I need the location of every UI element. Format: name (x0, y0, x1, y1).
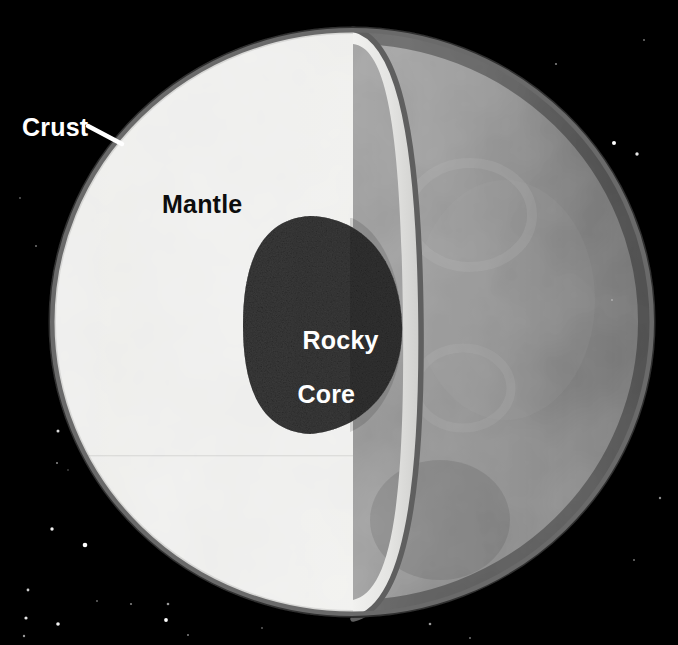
surface-feature-bright-patch (415, 180, 595, 420)
star (50, 527, 53, 530)
star (35, 245, 37, 247)
star (83, 543, 88, 548)
diagram-canvas: Crust Mantle Rocky Core (0, 0, 678, 645)
star (643, 39, 645, 41)
star (469, 637, 471, 639)
star (164, 618, 168, 622)
star (24, 616, 27, 619)
star (27, 589, 30, 592)
star (56, 462, 58, 464)
star (612, 141, 616, 145)
rocky-core (243, 216, 402, 434)
star (611, 299, 613, 301)
star (167, 603, 170, 606)
star (633, 559, 635, 561)
mantle-seam (45, 455, 355, 456)
star (67, 469, 69, 471)
star (57, 430, 60, 433)
star (23, 635, 25, 637)
star (187, 634, 189, 636)
star (659, 497, 661, 499)
star (635, 152, 638, 155)
star (130, 603, 132, 605)
planet-cutaway-illustration (0, 0, 678, 645)
star (56, 622, 60, 626)
star (261, 627, 263, 629)
star (19, 197, 21, 199)
star (96, 600, 98, 602)
star (555, 63, 557, 65)
star (429, 623, 432, 626)
